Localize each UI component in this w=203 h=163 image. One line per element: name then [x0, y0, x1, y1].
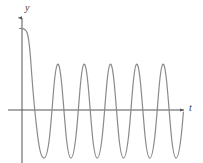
- t-axis-label: t: [189, 103, 192, 113]
- waveform-figure: y t: [0, 0, 203, 163]
- plot-area: [0, 0, 203, 163]
- waveform-curve: [20, 28, 184, 158]
- y-axis-label: y: [25, 3, 29, 13]
